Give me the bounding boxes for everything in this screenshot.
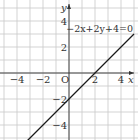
y-axis-label: y xyxy=(60,2,67,13)
y-axis-arrow-icon xyxy=(67,4,71,9)
y-tick-label: −4 xyxy=(52,120,67,131)
line-graph: −4−22442−2−4 x y O −2x+2y+4=0 xyxy=(0,0,138,140)
y-tick-label: 2 xyxy=(61,42,67,53)
x-tick-label: 4 xyxy=(118,74,124,85)
equation-label: −2x+2y+4=0 xyxy=(66,23,133,34)
x-tick-label: −2 xyxy=(36,74,51,85)
x-axis-label: x xyxy=(128,74,134,85)
x-tick-label: −4 xyxy=(10,74,25,85)
origin-label: O xyxy=(61,74,69,85)
